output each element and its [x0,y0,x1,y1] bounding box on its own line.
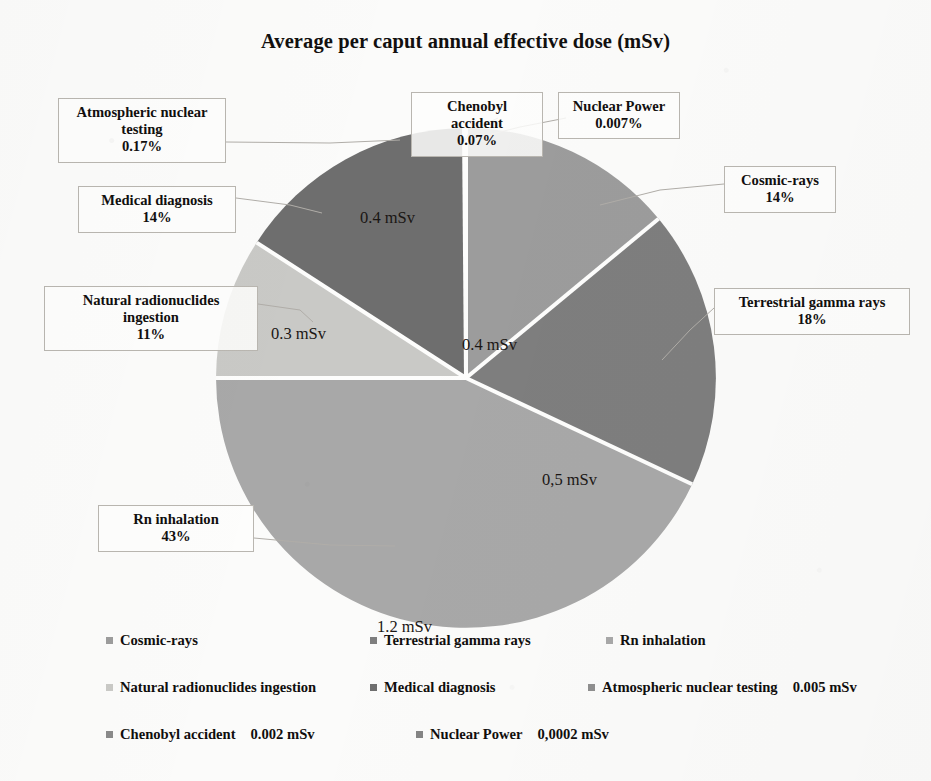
callout-label: Rn inhalation [133,511,219,527]
callout-terrestrial-gamma-rays[interactable]: Terrestrial gamma rays 18% [714,288,910,335]
legend-label: Chenobyl accident [120,726,236,743]
legend-label: Cosmic-rays [120,632,198,649]
callout-rn-inhalation[interactable]: Rn inhalation 43% [98,505,254,552]
callout-percent: 0.007% [567,115,671,132]
callout-label-2: testing [67,121,217,138]
chart-legend: Cosmic-rays Terrestrial gamma rays Rn in… [98,628,918,769]
legend-swatch-icon [370,637,377,644]
callout-nuclear-power[interactable]: Nuclear Power 0.007% [558,92,680,139]
chart-title: Average per caput annual effective dose … [0,30,931,53]
callout-label: Medical diagnosis [101,192,213,208]
legend-item-terrestrial-gamma-rays[interactable]: Terrestrial gamma rays [370,632,531,649]
legend-item-chenobyl-accident[interactable]: Chenobyl accident 0.002 mSv [106,726,315,743]
legend-label: Rn inhalation [620,632,706,649]
legend-value: 0,0002 mSv [538,726,609,743]
legend-item-rn-inhalation[interactable]: Rn inhalation [606,632,706,649]
legend-swatch-icon [106,684,113,691]
legend-swatch-icon [106,731,113,738]
legend-label: Medical diagnosis [384,679,496,696]
legend-swatch-icon [106,637,113,644]
legend-row: Natural radionuclides ingestion Medical … [98,675,918,722]
callout-label: Atmospheric nuclear [77,104,208,120]
slice-value-natural-radionuclides-ingestion: 0.3 mSv [271,324,326,344]
pie-svg [216,128,716,628]
legend-swatch-icon [606,637,613,644]
slice-value-terrestrial-gamma-rays: 0,5 mSv [542,470,597,490]
callout-cosmic-rays[interactable]: Cosmic-rays 14% [724,166,836,213]
legend-item-atmospheric-nuclear-testing[interactable]: Atmospheric nuclear testing 0.005 mSv [588,679,857,696]
legend-label: Nuclear Power [430,726,523,743]
callout-percent: 14% [87,209,227,226]
callout-percent: 14% [733,189,827,206]
legend-value: 0.002 mSv [251,726,315,743]
legend-label: Natural radionuclides ingestion [120,679,316,696]
callout-label: Natural radionuclides [83,292,220,308]
legend-swatch-icon [588,684,595,691]
legend-item-cosmic-rays[interactable]: Cosmic-rays [106,632,198,649]
callout-medical-diagnosis[interactable]: Medical diagnosis 14% [78,186,236,233]
slice-value-medical-diagnosis: 0.4 mSv [360,208,415,228]
callout-natural-radionuclides-ingestion[interactable]: Natural radionuclides ingestion 11% [44,286,258,351]
legend-row: Cosmic-rays Terrestrial gamma rays Rn in… [98,628,918,675]
legend-value: 0.005 mSv [793,679,857,696]
callout-label: Chenobyl accident [447,98,507,131]
callout-label: Nuclear Power [573,98,666,114]
callout-percent: 43% [107,528,245,545]
callout-chenobyl-accident[interactable]: Chenobyl accident 0.07% [411,92,543,157]
callout-atmospheric-nuclear-testing[interactable]: Atmospheric nuclear testing 0.17% [58,98,226,163]
legend-label: Atmospheric nuclear testing [602,679,778,696]
callout-percent: 0.17% [67,138,217,155]
legend-swatch-icon [370,684,377,691]
legend-item-natural-radionuclides-ingestion[interactable]: Natural radionuclides ingestion [106,679,316,696]
legend-row: Chenobyl accident 0.002 mSv Nuclear Powe… [98,722,918,769]
callout-label: Terrestrial gamma rays [739,294,886,310]
legend-item-nuclear-power[interactable]: Nuclear Power 0,0002 mSv [416,726,609,743]
legend-swatch-icon [416,731,423,738]
callout-label: Cosmic-rays [741,172,819,188]
legend-item-medical-diagnosis[interactable]: Medical diagnosis [370,679,496,696]
callout-percent: 11% [53,326,249,343]
slice-value-cosmic-rays: 0.4 mSv [462,335,517,355]
callout-percent: 0.07% [420,132,534,149]
callout-percent: 18% [723,311,901,328]
callout-label-2: ingestion [53,309,249,326]
pie-chart: 0.4 mSv 0,5 mSv 1.2 mSv 0.3 mSv 0.4 mSv [216,128,716,628]
legend-label: Terrestrial gamma rays [384,632,531,649]
